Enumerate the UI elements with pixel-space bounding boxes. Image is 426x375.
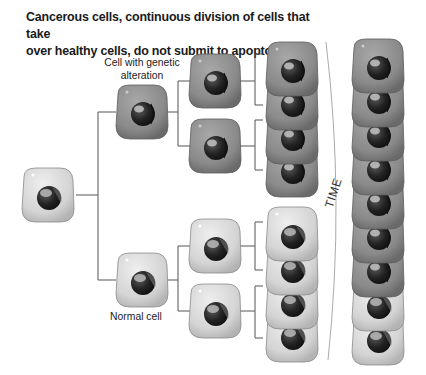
- mutated-cell-label: Cell with genetic alteration: [104, 56, 180, 82]
- mutated-label-line-2: alteration: [104, 69, 180, 82]
- mutated-label-line-1: Cell with genetic: [104, 56, 180, 69]
- gen3-column: [266, 42, 318, 362]
- gen2-normal-cell-2: [189, 284, 241, 338]
- normal-cell: [116, 253, 168, 307]
- normal-cell-label: Normal cell: [107, 310, 165, 323]
- root-cell: [22, 168, 74, 222]
- gen2-cancer-cell-1: [189, 54, 241, 108]
- mutated-cell: [116, 85, 168, 139]
- gen2-cancer-cell-2: [189, 119, 241, 173]
- gen2-normal-cell-1: [189, 219, 241, 273]
- cell-division-diagram: [0, 0, 426, 375]
- after-time-column: [352, 39, 404, 365]
